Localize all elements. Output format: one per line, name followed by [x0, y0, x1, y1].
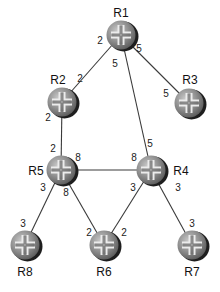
link-cost-label: 5 — [163, 88, 169, 99]
router-icon — [48, 88, 80, 119]
router-icon — [175, 89, 207, 120]
link-cost-label: 5 — [147, 138, 153, 149]
link-cost-label: 2 — [45, 112, 51, 123]
router-r6: R6 — [90, 231, 122, 280]
link-cost-label: 3 — [175, 182, 181, 193]
router-label: R1 — [113, 6, 129, 20]
router-label: R4 — [173, 164, 189, 178]
link-cost-label: 8 — [131, 152, 137, 163]
router-icon — [11, 231, 43, 262]
link-cost-label: 3 — [130, 182, 136, 193]
link-cost-label: 3 — [189, 218, 195, 229]
router-r8: R8 — [11, 231, 43, 280]
router-icon — [107, 21, 139, 52]
link-cost-label: 3 — [20, 218, 26, 229]
link-cost-label: 8 — [63, 187, 69, 198]
router-label: R8 — [17, 265, 33, 279]
router-r5: R5 — [28, 156, 78, 187]
router-icon — [178, 231, 210, 262]
link-cost-label: 3 — [40, 182, 46, 193]
router-r7: R7 — [178, 231, 210, 280]
link-cost-label: 5 — [112, 58, 118, 69]
router-label: R5 — [28, 164, 44, 178]
router-label: R6 — [96, 265, 112, 279]
link-cost-label: 2 — [121, 227, 127, 238]
router-r1: R1 — [107, 6, 139, 52]
router-icon — [90, 231, 122, 262]
router-r4: R4 — [137, 156, 189, 187]
link-cost-label: 5 — [136, 43, 142, 54]
link-cost-label: 2 — [97, 35, 103, 46]
router-label: R2 — [50, 73, 66, 87]
link-cost-label: 2 — [77, 73, 83, 84]
link-cost-label: 2 — [50, 143, 56, 154]
links-layer — [25, 35, 192, 245]
link-cost-label: 2 — [86, 227, 92, 238]
link-costs-layer: 225555228833823233 — [20, 35, 195, 238]
router-icon — [137, 156, 169, 187]
network-diagram: 225555228833823233 R1R2R3R5R4R8R6R7 — [0, 0, 220, 292]
router-icon — [47, 156, 79, 187]
link-r1-r4 — [121, 35, 151, 170]
router-label: R3 — [182, 73, 198, 87]
router-r2: R2 — [48, 73, 80, 119]
router-r3: R3 — [175, 73, 207, 120]
link-cost-label: 8 — [75, 152, 81, 163]
router-label: R7 — [184, 265, 200, 279]
